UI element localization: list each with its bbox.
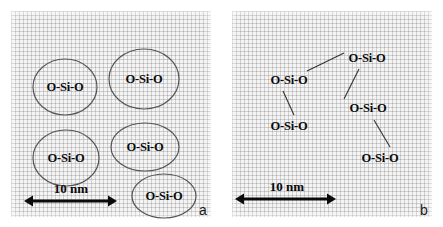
molecule-label: O-Si-O (350, 102, 387, 115)
molecule-label: O-Si-O (271, 120, 308, 133)
scale-bar-label-b: 10 nm (270, 179, 304, 195)
molecule-label: O-Si-O (146, 190, 183, 203)
molecule-label: O-Si-O (362, 152, 399, 165)
scale-bar-label-a: 10 nm (54, 181, 88, 197)
panel-a-graphics (11, 11, 211, 217)
molecule-label: O-Si-O (127, 141, 164, 154)
connector-line (344, 69, 359, 99)
panel-a: O-Si-OO-Si-OO-Si-OO-Si-OO-Si-O 10 nm a (11, 11, 211, 217)
connector-line (283, 91, 294, 115)
panel-b-graphics (232, 11, 432, 217)
panel-b: O-Si-OO-Si-OO-Si-OO-Si-OO-Si-O 10 nm b (232, 11, 432, 217)
scale-bar-arrow-right-a (108, 196, 117, 207)
connector-line (374, 120, 390, 147)
figure-root: O-Si-OO-Si-OO-Si-OO-Si-OO-Si-O 10 nm a O… (0, 0, 443, 227)
scale-bar-arrow-right-b (327, 194, 336, 205)
scale-bar-arrow-left-a (24, 196, 33, 207)
connector-line (307, 53, 344, 71)
panel-letter-b: b (420, 203, 428, 217)
molecule-label: O-Si-O (349, 52, 386, 65)
molecule-label: O-Si-O (126, 73, 163, 86)
scale-bar-arrow-left-b (235, 194, 244, 205)
molecule-label: O-Si-O (271, 74, 308, 87)
molecule-label: O-Si-O (48, 152, 85, 165)
molecule-label: O-Si-O (47, 81, 84, 94)
panel-letter-a: a (199, 203, 207, 217)
